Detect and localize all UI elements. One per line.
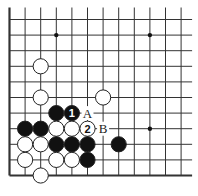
white-stone: [33, 137, 48, 152]
move-number: 2: [84, 123, 90, 135]
white-stone: [18, 137, 33, 152]
white-stone: [33, 59, 48, 74]
white-stone: [33, 168, 48, 183]
go-board-diagram: AB 12: [0, 0, 198, 196]
white-stone: [18, 152, 33, 167]
black-stone: [33, 121, 48, 136]
black-stone: [18, 121, 33, 136]
black-stone: [80, 152, 95, 167]
black-stone: [80, 137, 95, 152]
white-stone: [64, 121, 79, 136]
star-point-icon: [148, 127, 152, 131]
move-number: 1: [69, 107, 75, 119]
star-point-icon: [54, 33, 58, 37]
white-stone: [49, 152, 64, 167]
star-point-icon: [148, 33, 152, 37]
black-stone: [49, 106, 64, 121]
black-stone: [49, 137, 64, 152]
white-stone: [64, 152, 79, 167]
white-stone: [33, 90, 48, 105]
point-label-b: B: [99, 121, 108, 136]
point-label-a: A: [83, 106, 93, 121]
white-stone: [49, 121, 64, 136]
black-stone: [111, 137, 126, 152]
white-stone: 2: [80, 121, 95, 136]
white-stone: [96, 90, 111, 105]
black-stone: [64, 137, 79, 152]
black-stone: 1: [64, 106, 79, 121]
